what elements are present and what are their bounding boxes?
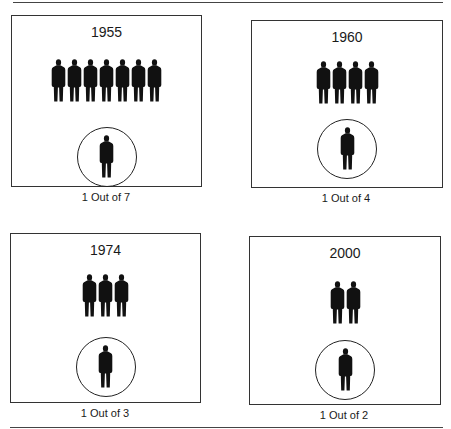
person-silhouette-icon [99, 135, 114, 179]
top-rule [13, 2, 443, 3]
person-silhouette-icon [346, 281, 361, 325]
panel-caption: 1 Out of 3 [10, 407, 200, 419]
highlighted-person-circle [76, 337, 136, 397]
person-silhouette-icon [316, 61, 331, 105]
person-silhouette-icon [364, 61, 379, 105]
person-silhouette-icon [67, 59, 82, 103]
people-group [252, 61, 442, 105]
people-group [11, 274, 200, 318]
person-silhouette-icon [82, 274, 97, 318]
panel-caption: 1 Out of 4 [251, 192, 441, 204]
person-silhouette-icon [348, 61, 363, 105]
person-silhouette-icon [99, 59, 114, 103]
person-silhouette-icon [98, 274, 113, 318]
panel-year: 1974 [11, 242, 200, 258]
person-silhouette-icon [340, 127, 355, 171]
person-silhouette-icon [115, 59, 130, 103]
panel-year: 2000 [250, 245, 440, 261]
person-silhouette-icon [98, 345, 113, 389]
person-silhouette-icon [51, 59, 66, 103]
person-silhouette-icon [83, 59, 98, 103]
panel-caption: 1 Out of 2 [249, 409, 439, 421]
person-silhouette-icon [330, 281, 345, 325]
highlighted-person-circle [77, 127, 137, 187]
bottom-rule [10, 427, 443, 428]
person-silhouette-icon [147, 59, 162, 103]
person-silhouette-icon [131, 59, 146, 103]
person-silhouette-icon [338, 348, 353, 392]
panel-caption: 1 Out of 7 [11, 191, 201, 203]
panel-year: 1960 [252, 29, 442, 45]
people-group [12, 59, 201, 103]
person-silhouette-icon [332, 61, 347, 105]
highlighted-person-circle [315, 340, 375, 400]
panel-2000: 2000 [249, 236, 441, 405]
panel-year: 1955 [12, 24, 201, 40]
panel-1955: 1955 [11, 15, 202, 187]
person-silhouette-icon [114, 274, 129, 318]
panel-1960: 1960 [251, 20, 443, 188]
people-group [250, 281, 440, 325]
highlighted-person-circle [317, 119, 377, 179]
panel-1974: 1974 [10, 233, 201, 403]
